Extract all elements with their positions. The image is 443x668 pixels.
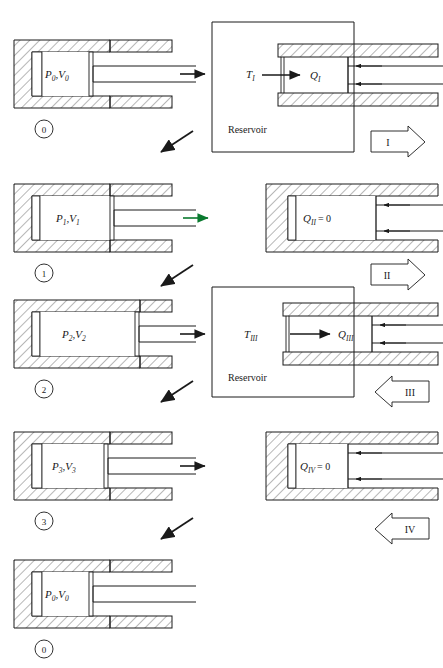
figure-canvas: P0,V0 0 TI Reservoir QI (0, 0, 443, 668)
diagonal-arrow-0 (161, 131, 193, 152)
row-1-process-label: II (384, 270, 391, 281)
row-0-process-arrow: I (371, 126, 425, 157)
row-0-reservoir-box: TI Reservoir (212, 22, 354, 152)
row-4-state-number: 0 (42, 645, 47, 655)
row-3-process-arrow: IV (375, 513, 429, 544)
row-3-process-label: IV (405, 524, 416, 535)
row-3-left-cylinder: P3,V3 (14, 432, 196, 500)
row-4-state-marker: 0 (35, 640, 53, 658)
row-1-state-number: 1 (42, 269, 47, 279)
row-2-state-marker: 2 (35, 380, 53, 398)
row-0-reservoir-caption: Reservoir (228, 124, 268, 135)
diagonal-arrow-1 (161, 265, 193, 286)
row-0-left-cylinder: P0,V0 (14, 40, 196, 108)
row-2-state-number: 2 (42, 385, 47, 395)
row-2-left-cylinder: P2,V2 (14, 300, 196, 368)
diagonal-arrow-2 (161, 381, 193, 402)
row-0-state-marker: 0 (35, 120, 53, 138)
row-0-state-number: 0 (42, 125, 47, 135)
row-3-state-number: 3 (42, 517, 47, 527)
row-1-process-arrow: II (371, 259, 425, 290)
row-2-right-cylinder: QIII (283, 303, 443, 365)
row-3-right-cylinder: QIV= 0 (266, 432, 443, 500)
row-4-left-cylinder: P0,V0 (14, 560, 196, 628)
row-1-left-cylinder: P1,V1 (14, 184, 196, 252)
row-2-process-arrow: III (375, 376, 429, 407)
row-0-process-label: I (386, 137, 389, 148)
row-1-right-cylinder: QII= 0 (266, 184, 443, 252)
row-1-state-marker: 1 (35, 264, 53, 282)
diagonal-arrow-3 (161, 518, 193, 539)
row-2-reservoir-caption: Reservoir (228, 372, 268, 383)
row-2-process-label: III (405, 387, 415, 398)
row-3-state-marker: 3 (35, 512, 53, 530)
